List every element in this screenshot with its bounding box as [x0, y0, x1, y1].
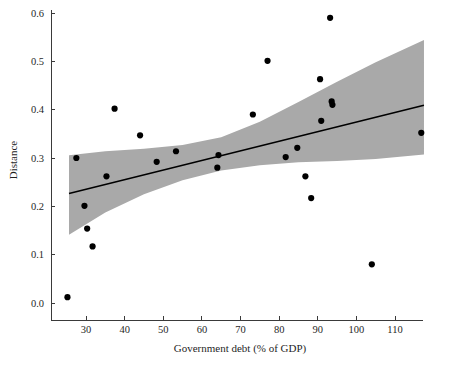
scatter-plot-figure: 304050607080901001100.00.10.20.30.40.50.… [0, 0, 452, 366]
x-tick-label: 40 [119, 324, 130, 335]
data-point [214, 165, 220, 171]
data-point [317, 76, 323, 82]
data-point [308, 195, 314, 201]
x-tick-label: 90 [313, 324, 324, 335]
data-point [369, 261, 375, 267]
data-point [137, 132, 143, 138]
y-tick-label: 0.4 [31, 104, 45, 115]
x-tick-label: 50 [158, 324, 169, 335]
x-axis-title: Government debt (% of GDP) [174, 342, 307, 355]
y-tick-label: 0.5 [31, 56, 44, 67]
confidence-interval-band [69, 40, 424, 235]
data-point [89, 243, 95, 249]
x-tick-label: 30 [81, 324, 92, 335]
y-tick-label: 0.3 [31, 153, 44, 164]
x-tick-label: 60 [197, 324, 208, 335]
y-axis-title: Distance [7, 141, 19, 180]
data-point [84, 225, 90, 231]
data-point [250, 111, 256, 117]
data-point [302, 173, 308, 179]
y-tick-label: 0.6 [31, 8, 44, 19]
confidence-band [69, 40, 424, 235]
data-point [418, 130, 424, 136]
data-point [318, 118, 324, 124]
data-point [327, 15, 333, 21]
x-tick-label: 100 [349, 324, 365, 335]
plot-canvas: 304050607080901001100.00.10.20.30.40.50.… [0, 0, 452, 366]
data-point [173, 148, 179, 154]
y-tick-label: 0.1 [31, 249, 44, 260]
data-point [81, 203, 87, 209]
data-point [294, 145, 300, 151]
data-point [154, 159, 160, 165]
data-point [73, 155, 79, 161]
data-point [64, 294, 70, 300]
x-tick-label: 70 [235, 324, 246, 335]
data-point [111, 106, 117, 112]
data-point [329, 102, 335, 108]
data-point [283, 154, 289, 160]
data-point [264, 58, 270, 64]
data-point [215, 152, 221, 158]
x-tick-label: 110 [387, 324, 402, 335]
data-point [103, 173, 109, 179]
y-tick-label: 0.2 [31, 201, 44, 212]
y-tick-label: 0.0 [31, 298, 44, 309]
x-tick-label: 80 [274, 324, 285, 335]
